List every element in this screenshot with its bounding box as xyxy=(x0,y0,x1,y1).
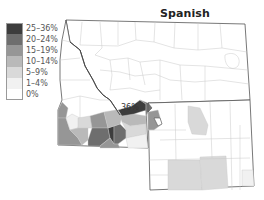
choropleth-map xyxy=(0,0,264,200)
max-value-annotation: 36% xyxy=(121,103,139,112)
